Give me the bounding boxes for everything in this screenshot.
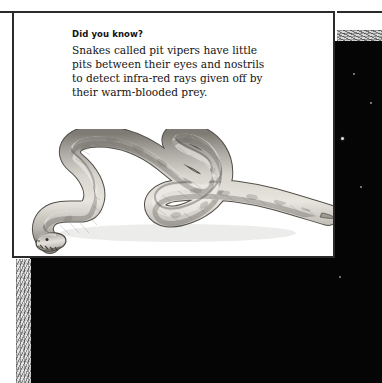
star: [360, 186, 362, 188]
did-you-know-card: Did you know? Snakes called pit vipers h…: [12, 11, 335, 258]
card-heading: Did you know?: [72, 29, 143, 39]
rule-right: [337, 11, 382, 13]
star: [341, 137, 344, 140]
body-line: their warm-blooded prey.: [72, 85, 322, 99]
body-line: Snakes called pit vipers have little: [72, 43, 322, 57]
star: [370, 102, 372, 104]
card-body-text: Snakes called pit vipers have little pit…: [72, 43, 322, 99]
body-line: to detect infra-red rays given off by: [72, 71, 322, 85]
star: [353, 73, 355, 75]
left-edge-grain-strip: [16, 259, 31, 383]
snake-heat-pit: [38, 240, 40, 242]
snake-eye: [46, 238, 49, 241]
top-right-grain-strip: [337, 30, 382, 41]
body-line: pits between their eyes and nostrils: [72, 57, 322, 71]
star: [339, 276, 341, 278]
book-page: Did you know? Snakes called pit vipers h…: [0, 0, 382, 383]
snake-illustration: [28, 129, 335, 257]
